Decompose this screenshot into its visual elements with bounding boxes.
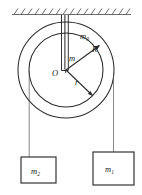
block-m2: [21, 157, 56, 183]
pulley-diagram-svg: m0 m R r O m2 m1: [0, 0, 142, 195]
label-outer-radius: R: [91, 44, 98, 54]
radius-r-arrow: [66, 70, 93, 96]
radius-r-line: [66, 70, 93, 96]
ceiling-hatch-marks: [14, 9, 130, 15]
label-inner-mass: m: [69, 53, 75, 63]
ceiling-support: [12, 9, 131, 15]
physics-figure: m0 m R r O m2 m1: [0, 0, 142, 195]
axle-bracket: [62, 15, 69, 71]
label-pulley-mass: m0: [80, 31, 89, 42]
label-center-O: O: [52, 68, 58, 78]
